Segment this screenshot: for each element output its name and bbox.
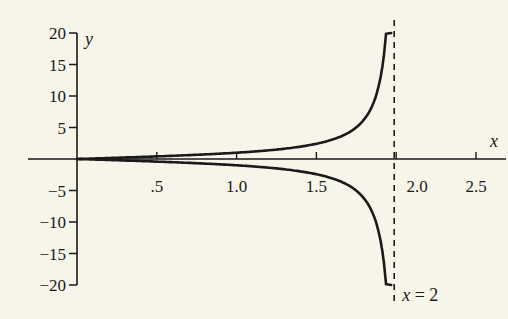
y-tick-label: 15 (49, 56, 66, 75)
axes (28, 20, 506, 305)
x-tick-label: 2.5 (465, 177, 486, 196)
y-tick-label: 5 (58, 119, 67, 138)
chart: 2015105−5−10−15−20.51.01.52.02.5yxx = 2 (0, 0, 508, 319)
y-tick-label: 10 (49, 87, 66, 106)
x-tick-label: 2.0 (407, 177, 428, 196)
upper-branch-curve (77, 33, 391, 159)
y-axis-label: y (83, 29, 93, 49)
y-tick-label: 20 (49, 24, 66, 43)
y-tick-label: −10 (39, 213, 66, 232)
labels: 2015105−5−10−15−20.51.01.52.02.5yxx = 2 (39, 24, 498, 305)
x-tick-label: 1.5 (306, 177, 327, 196)
x-tick-label: .5 (150, 177, 163, 196)
y-tick-label: −20 (39, 276, 66, 295)
x-tick-label: 1.0 (226, 177, 247, 196)
asymptote-label: x = 2 (401, 285, 438, 305)
y-tick-label: −5 (48, 182, 66, 201)
y-tick-label: −15 (39, 245, 66, 264)
x-axis-label: x (489, 131, 498, 151)
